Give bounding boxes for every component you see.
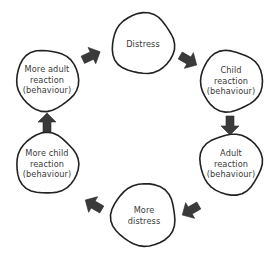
label-line: (behaviour)	[207, 169, 256, 180]
distress-cycle-diagram: Distress Child reaction (behaviour) Adul…	[0, 0, 277, 256]
label-line: (behaviour)	[23, 85, 72, 96]
label-line: reaction	[23, 159, 72, 170]
label-line: (behaviour)	[23, 169, 72, 180]
label-line: (behaviour)	[207, 86, 256, 97]
label-line: reaction	[207, 76, 256, 87]
arrow-icon-child-reaction-to-adult-reaction	[221, 116, 239, 135]
label-line: More adult	[23, 64, 72, 75]
arrow-icon-adult-reaction-to-more-distress	[178, 198, 203, 223]
label-line: Child	[207, 65, 256, 76]
arrow-icon-more-child-reaction-to-more-adult-reaction	[38, 113, 56, 132]
node-label-more-adult-reaction: More adult reaction (behaviour)	[23, 64, 72, 96]
arrow-icon-distress-to-child-reaction	[176, 48, 201, 73]
label-line: reaction	[207, 159, 256, 170]
arrow-icon-more-adult-reaction-to-distress	[79, 44, 104, 68]
node-label-distress: Distress	[126, 39, 160, 50]
label-line: reaction	[23, 75, 72, 86]
label-line: Distress	[126, 39, 160, 50]
node-label-more-child-reaction: More child reaction (behaviour)	[23, 148, 72, 180]
node-label-child-reaction: Child reaction (behaviour)	[207, 65, 256, 97]
label-line: More child	[23, 148, 72, 159]
label-line: More	[128, 205, 161, 216]
node-label-adult-reaction: Adult reaction (behaviour)	[207, 148, 256, 180]
node-label-more-distress: More distress	[128, 205, 161, 226]
label-line: Adult	[207, 148, 256, 159]
arrow-icon-more-distress-to-more-child-reaction	[81, 192, 106, 217]
label-line: distress	[128, 215, 161, 226]
